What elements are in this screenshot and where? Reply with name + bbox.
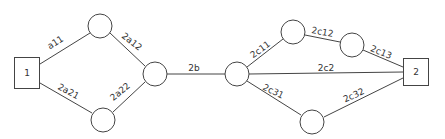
network-diagram: a112a122a212a222b2c112c122c132c22c312c32…	[0, 0, 445, 139]
edge-label: 2b	[188, 63, 200, 73]
edge-label: 2a12	[120, 31, 144, 53]
node-circle	[300, 110, 324, 134]
terminal-label: 1	[24, 68, 30, 78]
node-circle	[281, 20, 305, 44]
edge-label: a11	[46, 34, 66, 51]
node-circle	[88, 14, 112, 38]
edge-label: 2c13	[369, 43, 393, 61]
edge-label: 2c32	[342, 86, 366, 104]
terminal-label: 2	[413, 67, 419, 77]
node-circle	[91, 108, 115, 132]
edge-label: 2a21	[56, 82, 81, 101]
node-circle	[340, 33, 364, 57]
edge-a11	[40, 33, 90, 64]
terminals-layer: 12	[15, 58, 429, 89]
edge-label: 2a22	[108, 81, 132, 103]
edge-2c32	[324, 78, 403, 117]
edge-label: 2c2	[318, 63, 334, 73]
node-circle	[225, 62, 249, 86]
node-circle	[143, 62, 167, 86]
